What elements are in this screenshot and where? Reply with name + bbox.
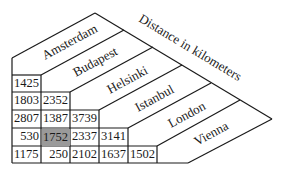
- label-istanbul: Istanbul: [132, 81, 176, 114]
- label-helsinki: Helsinki: [104, 62, 150, 96]
- label-budapest: Budapest: [70, 43, 120, 79]
- cell-budapest-amsterdam: 1425: [12, 75, 41, 93]
- cell-london-amsterdam: 530: [12, 128, 41, 146]
- cell-london-istanbul: 3141: [99, 128, 128, 146]
- cell-vienna-amsterdam: 1175: [12, 146, 41, 164]
- cell-istanbul-amsterdam: 2807: [12, 110, 41, 128]
- cell-helsinki-budapest: 2352: [41, 92, 70, 110]
- cell-istanbul-budapest: 1387: [41, 110, 70, 128]
- top-right-edge: [95, 13, 272, 119]
- cell-london-helsinki: 2337: [70, 128, 99, 146]
- cell-istanbul-helsinki: 3739: [70, 110, 99, 128]
- cell-vienna-budapest: 250: [41, 146, 70, 164]
- cell-vienna-helsinki: 2102: [70, 146, 99, 164]
- cell-helsinki-amsterdam: 1803: [12, 92, 41, 110]
- label-london: London: [165, 98, 208, 131]
- cell-vienna-istanbul: 1637: [99, 146, 128, 164]
- cell-vienna-london: 1502: [128, 146, 157, 164]
- cell-london-budapest-highlighted: 1752: [42, 129, 70, 146]
- distance-triangle-table: Amsterdam Budapest Helsinki Istanbul Lon…: [0, 0, 285, 170]
